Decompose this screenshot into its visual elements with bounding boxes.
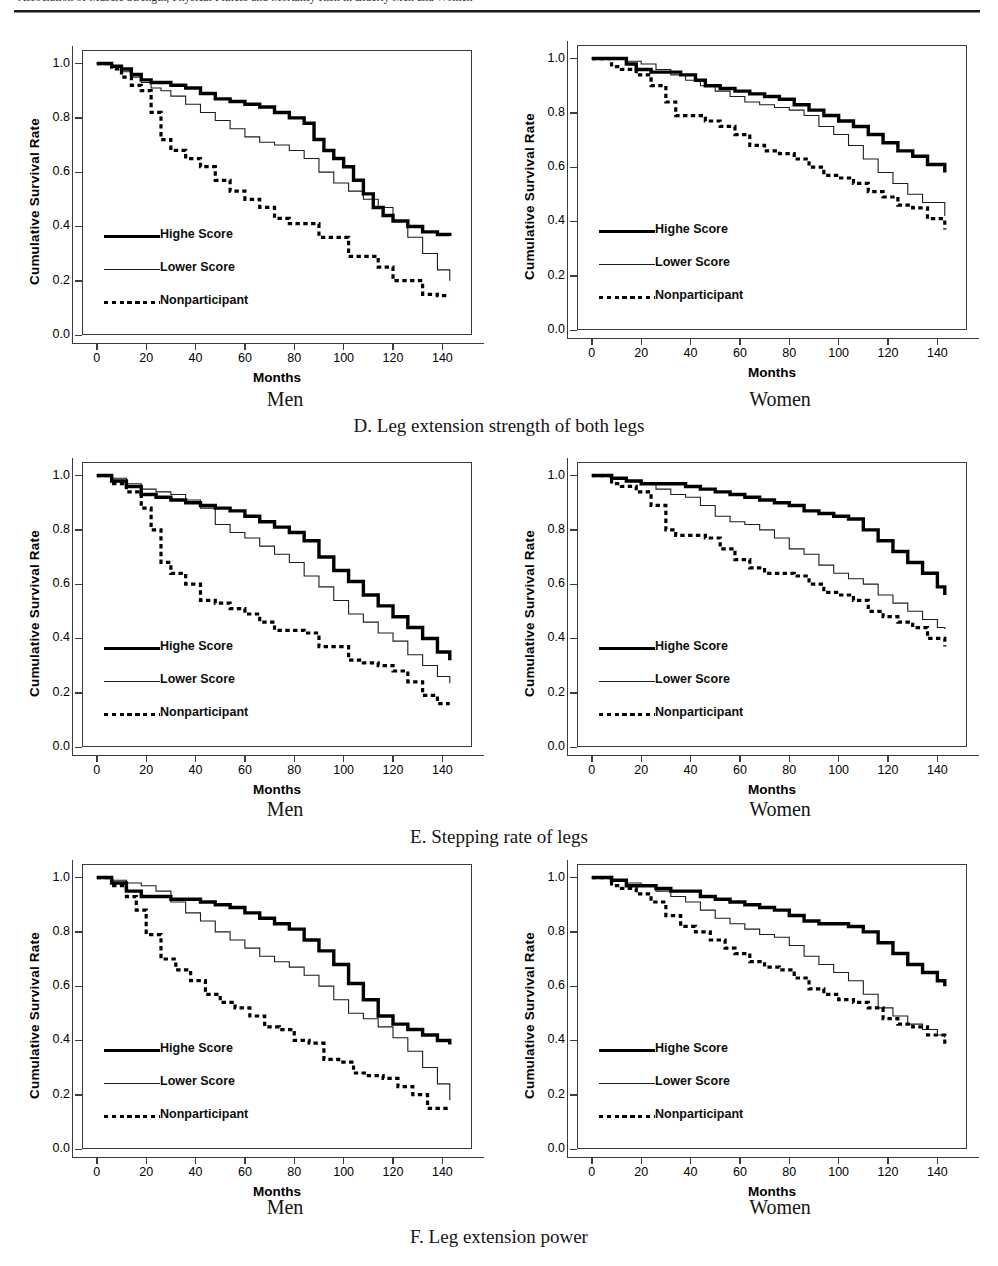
- curve-nonparticipant: [592, 59, 945, 230]
- survival-curves: [0, 0, 998, 1266]
- y-tick-mark: [570, 529, 577, 530]
- y-tick-label: 0.8: [36, 924, 70, 938]
- curve-lower-score: [97, 878, 450, 1101]
- x-tick-label: 0: [75, 763, 119, 777]
- x-tick-label: 0: [570, 763, 614, 777]
- x-tick-mark: [789, 339, 790, 345]
- group-label-women-f: Women: [700, 1196, 860, 1219]
- x-tick-mark: [195, 344, 196, 350]
- y-tick-mark: [570, 1040, 577, 1041]
- x-tick-label: 20: [619, 346, 663, 360]
- x-tick-mark: [937, 339, 938, 345]
- y-tick-label: 0.6: [36, 978, 70, 992]
- x-tick-mark: [591, 756, 592, 762]
- y-tick-mark: [75, 1094, 82, 1095]
- legend-swatch-non: [599, 1115, 655, 1118]
- y-axis-title: Cumulative Survival Rate: [27, 118, 42, 285]
- x-tick-mark: [838, 756, 839, 762]
- y-tick-label: 1.0: [531, 51, 565, 65]
- survival-curves: [0, 0, 998, 1266]
- x-tick-label: 80: [767, 1165, 811, 1179]
- x-tick-label: 80: [272, 351, 316, 365]
- legend-label-low: Lower Score: [655, 672, 730, 686]
- legend-label-high: Highe Score: [655, 222, 728, 236]
- y-tick-label: 0.6: [36, 576, 70, 590]
- x-tick-mark: [838, 339, 839, 345]
- y-axis-line: [567, 860, 568, 1158]
- y-tick-mark: [570, 167, 577, 168]
- x-axis-title: Months: [82, 370, 472, 385]
- x-tick-label: 40: [174, 1165, 218, 1179]
- x-tick-label: 100: [817, 763, 861, 777]
- y-tick-mark: [75, 280, 82, 281]
- y-tick-mark: [570, 747, 577, 748]
- x-tick-label: 120: [866, 1165, 910, 1179]
- legend-label-non: Nonparticipant: [655, 705, 743, 719]
- y-tick-label: 0.0: [36, 327, 70, 341]
- x-tick-label: 140: [420, 1165, 464, 1179]
- legend-swatch-non: [104, 713, 160, 716]
- x-tick-mark: [591, 1158, 592, 1164]
- chart-panel-e-men: 1.00.80.60.40.20.0020406080100120140Cumu…: [0, 0, 998, 1266]
- y-tick-label: 0.0: [531, 1141, 565, 1155]
- y-tick-mark: [75, 117, 82, 118]
- curve-nonparticipant: [97, 878, 450, 1109]
- x-axis-line: [567, 338, 979, 339]
- x-tick-label: 140: [915, 763, 959, 777]
- legend-swatch-high: [104, 235, 160, 238]
- curve-highe-score: [97, 64, 450, 236]
- legend-label-non: Nonparticipant: [655, 1107, 743, 1121]
- y-axis-title: Cumulative Survival Rate: [27, 530, 42, 697]
- x-tick-label: 0: [570, 1165, 614, 1179]
- y-tick-label: 0.2: [36, 1087, 70, 1101]
- x-tick-label: 140: [420, 351, 464, 365]
- x-tick-label: 60: [223, 351, 267, 365]
- curve-lower-score: [592, 476, 945, 629]
- y-tick-label: 0.2: [36, 273, 70, 287]
- y-tick-label: 0.6: [531, 576, 565, 590]
- legend-label-high: Highe Score: [160, 1041, 233, 1055]
- y-tick-mark: [570, 112, 577, 113]
- y-tick-mark: [75, 692, 82, 693]
- legend-label-non: Nonparticipant: [655, 288, 743, 302]
- y-tick-mark: [570, 330, 577, 331]
- y-tick-label: 0.4: [531, 630, 565, 644]
- figure-page: Association of Muscle Strength, Physical…: [0, 0, 998, 1266]
- y-axis-title: Cumulative Survival Rate: [522, 113, 537, 280]
- x-tick-label: 20: [124, 1165, 168, 1179]
- x-tick-label: 100: [817, 346, 861, 360]
- survival-curves: [0, 0, 998, 1266]
- plot-frame: [577, 45, 967, 330]
- caption-d: D. Leg extension strength of both legs: [0, 415, 998, 437]
- x-tick-label: 80: [272, 1165, 316, 1179]
- legend-swatch-high: [104, 647, 160, 650]
- legend-label-low: Lower Score: [655, 1074, 730, 1088]
- legend-swatch-non: [104, 1115, 160, 1118]
- curve-nonparticipant: [97, 64, 450, 296]
- chart-panel-f-women: 1.00.80.60.40.20.0020406080100120140Cumu…: [0, 0, 998, 1266]
- legend-label-low: Lower Score: [160, 1074, 235, 1088]
- y-tick-mark: [570, 931, 577, 932]
- x-axis-line: [72, 343, 484, 344]
- group-label-men-f: Men: [215, 1196, 355, 1219]
- legend-swatch-low: [599, 264, 655, 265]
- legend-label-non: Nonparticipant: [160, 1107, 248, 1121]
- y-tick-mark: [75, 172, 82, 173]
- y-tick-mark: [570, 475, 577, 476]
- x-tick-label: 120: [371, 351, 415, 365]
- y-tick-label: 0.0: [531, 739, 565, 753]
- x-tick-mark: [294, 756, 295, 762]
- x-tick-mark: [146, 756, 147, 762]
- legend-swatch-non: [104, 301, 160, 304]
- survival-curves: [0, 0, 998, 1266]
- curve-nonparticipant: [592, 878, 945, 1048]
- y-tick-label: 0.4: [36, 1032, 70, 1046]
- survival-curves: [0, 0, 998, 1266]
- x-tick-mark: [789, 1158, 790, 1164]
- y-tick-mark: [75, 638, 82, 639]
- group-label-women-e: Women: [700, 798, 860, 821]
- y-tick-mark: [570, 1094, 577, 1095]
- x-tick-label: 100: [817, 1165, 861, 1179]
- x-tick-label: 60: [223, 763, 267, 777]
- x-tick-mark: [294, 344, 295, 350]
